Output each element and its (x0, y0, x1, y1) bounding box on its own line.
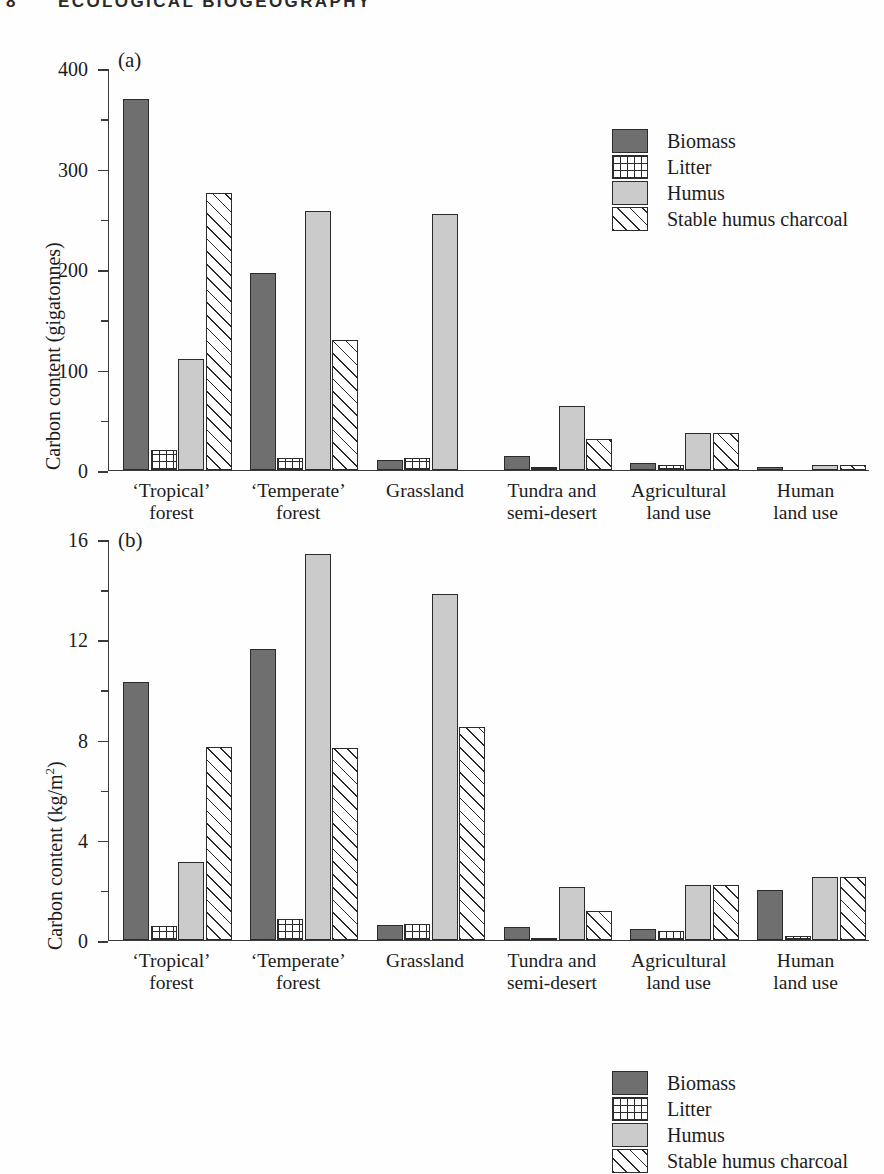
y-axis-tick-label: 16 (18, 529, 88, 552)
bar-litter (404, 458, 430, 470)
bar-humus (178, 359, 204, 470)
bar-humus (559, 406, 585, 470)
bar-stable-humus-charcoal (206, 193, 232, 470)
y-axis-tick-label: 0 (18, 460, 88, 483)
x-axis-category-line1: ‘Temperate’ (229, 950, 368, 972)
x-axis-category-line1: Human (736, 480, 875, 502)
bar-biomass (757, 890, 783, 940)
bar-litter (151, 450, 177, 470)
bar-litter (277, 458, 303, 470)
legend-swatch-grid-crosshatch (612, 1097, 648, 1121)
y-axis-tick-minor (101, 320, 108, 322)
bar-biomass (250, 273, 276, 470)
bar-litter (531, 938, 557, 941)
legend-label: Stable humus charcoal (667, 1148, 848, 1174)
legend-swatch-solid-light-gray (612, 1123, 648, 1147)
y-axis-tick-minor (101, 690, 108, 692)
x-axis-category-line1: Agricultural (609, 480, 748, 502)
legend-label: Litter (667, 154, 711, 180)
y-axis-tick-minor (101, 791, 108, 793)
bar-litter (531, 467, 557, 470)
x-axis-category-line2: semi-desert (483, 972, 622, 994)
bar-humus (305, 211, 331, 470)
y-axis-tick-label: 100 (18, 359, 88, 382)
x-axis-category-line1: ‘Tropical’ (102, 950, 241, 972)
bar-biomass (377, 925, 403, 940)
x-axis-category-line1: Agricultural (609, 950, 748, 972)
y-axis-tick-minor (101, 891, 108, 893)
y-axis-tick-minor (101, 421, 108, 423)
legend-swatch-solid-light-gray (612, 181, 648, 205)
y-axis-tick-major (98, 371, 108, 373)
page-number: 8 (6, 0, 16, 12)
bar-litter (404, 924, 430, 940)
y-axis-tick-minor (101, 590, 108, 592)
legend-label: Biomass (667, 128, 736, 154)
bar-humus (432, 594, 458, 940)
bar-humus (685, 885, 711, 940)
bar-biomass (123, 682, 149, 940)
legend-swatch-diagonal-hatch (612, 1149, 648, 1173)
bar-stable-humus-charcoal (459, 727, 485, 940)
y-axis-tick-minor (101, 220, 108, 222)
x-axis-category-label: Agriculturalland use (609, 950, 748, 994)
legend-label: Stable humus charcoal (667, 206, 848, 232)
running-head: 8 ECOLOGICAL BIOGEOGRAPHY (0, 0, 884, 18)
bar-biomass (504, 927, 530, 940)
bar-biomass (757, 467, 783, 470)
x-axis-category-line1: Grassland (356, 480, 495, 502)
bar-litter (658, 465, 684, 470)
x-axis-category-label: Grassland (356, 480, 495, 502)
x-axis-category-line1: Tundra and (483, 950, 622, 972)
legend-swatch-solid-dark-gray (612, 129, 648, 153)
legend-label: Humus (667, 1122, 725, 1148)
x-axis-category-label: Humanland use (736, 950, 875, 994)
y-axis-tick-label: 200 (18, 259, 88, 282)
bar-stable-humus-charcoal (332, 340, 358, 470)
y-axis-tick-label: 400 (18, 58, 88, 81)
y-axis-tick-label: 8 (18, 729, 88, 752)
x-axis-category-line1: ‘Tropical’ (102, 480, 241, 502)
bar-stable-humus-charcoal (713, 433, 739, 470)
bar-stable-humus-charcoal (713, 885, 739, 940)
bar-stable-humus-charcoal (586, 911, 612, 940)
bar-biomass (377, 460, 403, 470)
bar-stable-humus-charcoal (840, 877, 866, 940)
x-axis-category-line2: forest (102, 972, 241, 994)
legend-label: Biomass (667, 1070, 736, 1096)
bar-litter (277, 919, 303, 940)
legend-label: Humus (667, 180, 725, 206)
bar-humus (432, 214, 458, 470)
bar-biomass (250, 649, 276, 940)
legend-swatch-grid-crosshatch (612, 155, 648, 179)
legend-label: Litter (667, 1096, 711, 1122)
bar-humus (305, 554, 331, 940)
y-axis-tick-major (98, 69, 108, 71)
y-axis-tick-major (98, 640, 108, 642)
y-axis-tick-label: 0 (18, 930, 88, 953)
chapter-title: ECOLOGICAL BIOGEOGRAPHY (58, 0, 372, 12)
bar-humus (685, 433, 711, 470)
bar-litter (151, 926, 177, 940)
plot-area-b: 0481216 (108, 540, 869, 941)
y-axis-tick-label: 300 (18, 158, 88, 181)
plot-area-a: 0100200300400 (108, 69, 869, 471)
legend-swatch-solid-dark-gray (612, 1071, 648, 1095)
x-axis-category-line1: Human (736, 950, 875, 972)
y-axis-tick-label: 12 (18, 629, 88, 652)
y-axis-label-b: Carbon content (kg/m2) (42, 761, 67, 950)
y-axis-tick-label: 4 (18, 829, 88, 852)
y-axis-tick-major (98, 270, 108, 272)
x-axis-category-label: ‘Temperate’forest (229, 950, 368, 994)
bar-stable-humus-charcoal (586, 439, 612, 470)
bar-biomass (504, 456, 530, 470)
x-axis-category-line2: land use (609, 972, 748, 994)
x-axis-category-line1: Tundra and (483, 480, 622, 502)
y-axis-tick-major (98, 941, 108, 943)
bar-biomass (630, 463, 656, 470)
y-axis-tick-major (98, 741, 108, 743)
bar-litter (658, 931, 684, 940)
bar-litter (785, 936, 811, 940)
bar-humus (178, 862, 204, 940)
x-axis-category-label: ‘Tropical’forest (102, 950, 241, 994)
